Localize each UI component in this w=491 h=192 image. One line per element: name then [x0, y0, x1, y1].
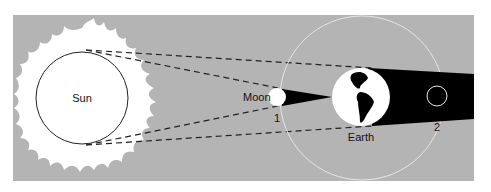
- position-2-label: 2: [434, 121, 440, 133]
- position-1-label: 1: [274, 112, 280, 124]
- sun-label: Sun: [72, 92, 92, 104]
- moon-position-1: [268, 88, 286, 106]
- eclipse-diagram: Sun Moon 1 2 Earth: [0, 0, 491, 192]
- moon-label: Moon: [243, 91, 271, 103]
- earth-label: Earth: [348, 131, 374, 143]
